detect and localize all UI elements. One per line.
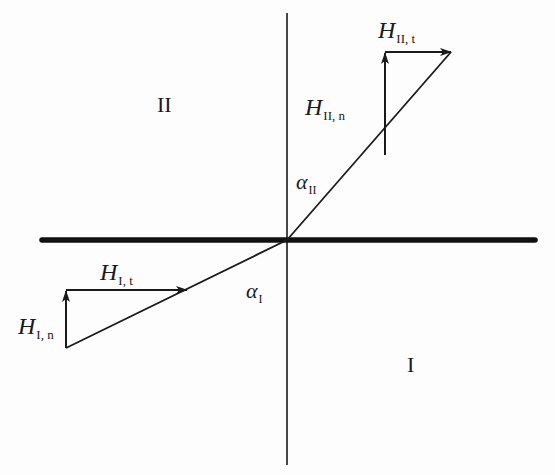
label-H-I-t: HI, t [99,259,133,288]
label-H-II-t: HII, t [377,17,416,46]
label-H-I-n: HI, n [17,313,54,342]
label-alpha-I: αI [246,278,263,306]
magnetic-field-boundary-diagram: II I HII, t HII, n αII HI, t HI, n αI [0,0,555,475]
diagram-canvas: II I HII, t HII, n αII HI, t HI, n αI [0,0,555,475]
label-H-II-n: HII, n [304,94,346,123]
region-I-label: I [407,352,414,377]
resultant-field-II-line [287,52,451,240]
label-alpha-II: αII [296,169,317,197]
region-II-label: II [157,92,172,117]
